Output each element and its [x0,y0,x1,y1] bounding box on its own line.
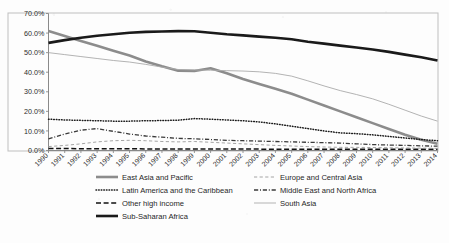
x-axis-tick-label: 1995 [114,152,130,168]
x-axis-tick-label: 1992 [66,152,82,168]
x-axis-tick-label: 1997 [147,152,163,168]
legend-item-label: Latin America and the Caribbean [122,186,233,195]
chart-legend: East Asia and PacificEurope and Central … [96,173,377,221]
x-axis-tick-label: 1999 [179,152,195,168]
legend-item-label: South Asia [280,199,317,208]
x-axis-tick-label: 2013 [406,152,422,168]
series-line [49,129,438,147]
x-axis-tick-label: 2014 [422,152,438,168]
y-axis-tick-label: 50.0% [24,48,45,57]
series-line [49,53,438,122]
x-axis-tick-label: 1994 [98,152,114,168]
x-axis-tick-label: 1991 [49,152,65,168]
y-axis-tick-label: 40.0% [24,68,45,77]
legend-item-label: Other high income [122,199,184,208]
x-axis-tick-label: 2002 [228,152,244,168]
legend-item-label: Sub-Saharan Africa [122,212,189,221]
legend-item-label: Middle East and North Africa [280,186,377,195]
series-line [49,140,438,148]
x-axis-tick-label: 2003 [244,152,260,168]
data-series-group [49,31,438,149]
x-axis-tick-label: 1993 [82,152,98,168]
x-axis-ticks: 1990199119921993199419951996199719981999… [33,151,438,168]
chart-canvas: 0.0%10.0%20.0%30.0%40.0%50.0%60.0%70.0% … [0,0,449,243]
x-axis-tick-label: 2011 [374,152,390,168]
x-axis-tick-label: 2007 [309,152,325,168]
y-axis-ticks: 0.0%10.0%20.0%30.0%40.0%50.0%60.0%70.0% [24,9,48,155]
x-axis-tick-label: 2012 [390,152,406,168]
series-line [49,31,438,144]
x-axis-tick-label: 2010 [357,152,373,168]
x-axis-tick-label: 2000 [195,152,211,168]
line-chart: 0.0%10.0%20.0%30.0%40.0%50.0%60.0%70.0% … [0,0,449,243]
y-axis-tick-label: 30.0% [24,87,45,96]
x-axis-tick-label: 2001 [212,152,228,168]
x-axis-tick-label: 2006 [293,152,309,168]
x-axis-tick-label: 2004 [260,152,276,168]
x-axis-tick-label: 1998 [163,152,179,168]
series-line [49,31,438,60]
x-axis-tick-label: 2005 [276,152,292,168]
y-axis-tick-label: 20.0% [24,107,45,116]
x-axis-tick-label: 2009 [341,152,357,168]
y-axis-tick-label: 10.0% [24,127,45,136]
y-axis-tick-label: 60.0% [24,29,45,38]
x-axis-tick-label: 1996 [130,152,146,168]
series-line [49,149,438,150]
legend-item-label: East Asia and Pacific [122,173,193,182]
x-axis-tick-label: 2008 [325,152,341,168]
legend-item-label: Europe and Central Asia [280,173,363,182]
y-axis-tick-label: 70.0% [24,9,45,18]
